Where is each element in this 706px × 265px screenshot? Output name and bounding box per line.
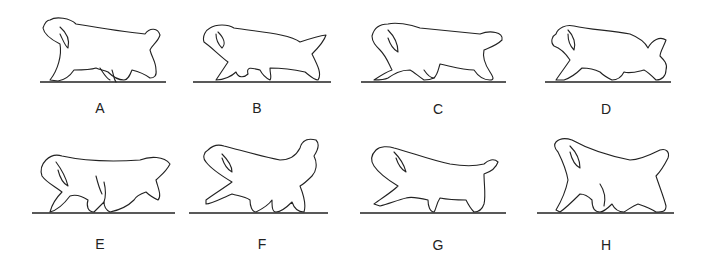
panel-label-f: F [258, 236, 267, 252]
gait-figure [0, 0, 706, 265]
panel-label-a: A [95, 100, 104, 116]
dog-drawing-f [189, 139, 328, 213]
dog-drawing-b [193, 25, 331, 82]
panel-label-c: C [433, 101, 443, 117]
dog-drawing-e [32, 155, 175, 213]
panel-label-d: D [601, 101, 611, 117]
panel-label-b: B [252, 100, 261, 116]
panel-label-h: H [601, 237, 611, 253]
dog-drawing-g [360, 147, 506, 213]
dog-drawing-c [361, 23, 506, 82]
panel-label-g: G [433, 237, 444, 253]
panel-label-e: E [95, 236, 104, 252]
dog-drawing-a [40, 18, 166, 82]
dog-drawing-d [545, 25, 671, 82]
dog-drawing-h [537, 139, 674, 213]
